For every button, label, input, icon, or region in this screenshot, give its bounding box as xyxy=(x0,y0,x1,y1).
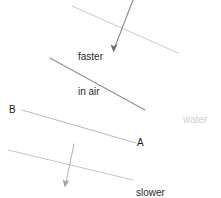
label-point-a: A xyxy=(137,137,144,149)
incident-ray xyxy=(111,0,133,53)
label-faster-line1: faster xyxy=(78,51,103,63)
incident-ray-arrowhead xyxy=(111,44,118,53)
incident-ray-shaft xyxy=(115,0,134,48)
label-faster-in-air: faster in air xyxy=(78,28,103,120)
label-slower-in-water: slower in water xyxy=(136,164,171,198)
label-faster-line2: in air xyxy=(78,86,103,98)
label-point-b: B xyxy=(9,104,16,116)
label-medium-water: water xyxy=(183,114,207,126)
refraction-diagram: faster in air slower in water B A water xyxy=(0,0,221,198)
refracted-ray-shaft xyxy=(66,144,74,183)
wavefront-water-1 xyxy=(8,150,133,180)
label-slower-line1: slower xyxy=(136,187,171,198)
diagram-canvas xyxy=(0,0,221,198)
